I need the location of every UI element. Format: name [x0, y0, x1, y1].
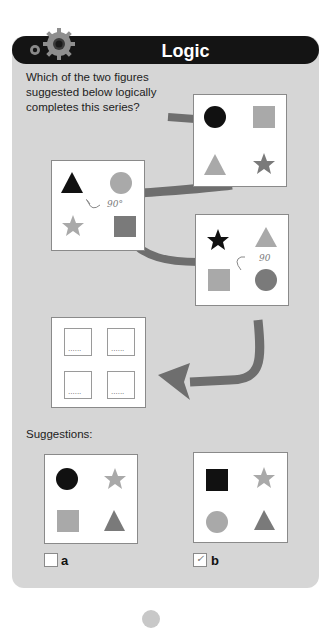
series-figure-3: 90	[195, 214, 289, 306]
placeholder-slot: ......	[107, 328, 135, 356]
suggestion-b-figure[interactable]	[193, 452, 288, 543]
series-figure-1	[193, 94, 287, 187]
rotation-annotation: 90°	[107, 199, 123, 209]
placeholder-slot: ......	[64, 328, 92, 356]
page-indicator	[142, 610, 160, 628]
series-figure-2: 90°	[51, 160, 145, 251]
small-gear-icon	[29, 44, 41, 56]
option-b-label: b	[211, 553, 219, 568]
suggestion-a-figure[interactable]	[44, 454, 138, 544]
option-a-checkbox[interactable]	[44, 553, 58, 567]
placeholder-slot: ......	[64, 371, 92, 399]
placeholder-slot: ......	[107, 371, 135, 399]
check-mark-icon: ✓	[196, 553, 204, 564]
rotation-annotation: 90	[259, 253, 270, 263]
series-figure-unknown: ...... ...... ...... ......	[51, 317, 146, 408]
option-b-checkbox[interactable]: ✓	[193, 553, 207, 567]
question-text: Which of the two figures suggested below…	[26, 70, 186, 115]
option-a-label: a	[61, 553, 68, 568]
gear-icon	[42, 27, 76, 61]
suggestions-label: Suggestions:	[26, 428, 93, 440]
